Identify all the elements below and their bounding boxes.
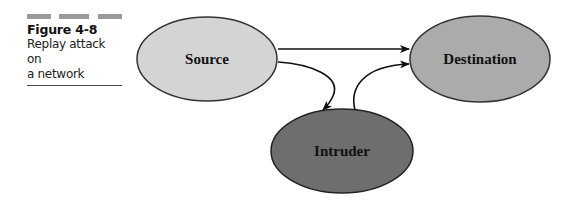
- edge-source-to-intruder: [278, 62, 335, 110]
- source-label: Source: [185, 51, 229, 67]
- edge-intruder-to-destination: [354, 64, 409, 110]
- destination-label: Destination: [443, 51, 517, 67]
- destination-node: Destination: [410, 16, 550, 102]
- replay-attack-diagram: Source Destination Intruder: [0, 0, 579, 205]
- arrow-curved-icon: [354, 64, 409, 110]
- intruder-node: Intruder: [271, 109, 413, 193]
- intruder-label: Intruder: [314, 143, 370, 159]
- source-node: Source: [137, 17, 277, 101]
- arrow-curved-icon: [278, 62, 335, 110]
